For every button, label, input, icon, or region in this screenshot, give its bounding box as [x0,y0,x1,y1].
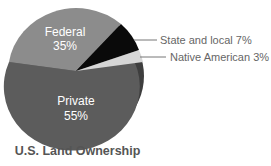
chart-title: U.S. Land Ownership [0,144,155,158]
label-private-pct: 55% [64,109,88,123]
label-state-local: State and local 7% [160,34,252,46]
label-federal-pct: 35% [53,39,77,53]
pie-chart: Federal 35% Private 55% State and local … [0,0,271,166]
label-private-name: Private [57,94,95,108]
label-federal-name: Federal [45,25,86,39]
label-native-american: Native American 3% [170,51,269,63]
pie-chart-svg: Federal 35% Private 55% State and local … [0,0,271,166]
